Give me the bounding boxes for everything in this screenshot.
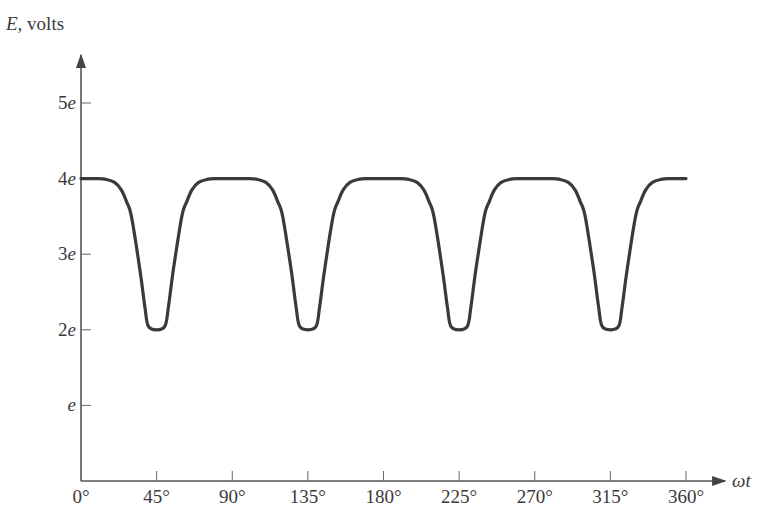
x-tick-label: 135° bbox=[290, 486, 326, 507]
y-tick-label: 4e bbox=[58, 168, 76, 189]
y-tick-label: 5e bbox=[58, 92, 76, 113]
x-tick-label: 180° bbox=[365, 486, 401, 507]
x-tick-label: 315° bbox=[592, 486, 628, 507]
y-axis-label: E, volts bbox=[5, 13, 64, 34]
x-axis-label: ωt bbox=[732, 470, 751, 491]
y-tick-label: 2e bbox=[58, 319, 76, 340]
x-tick-label: 270° bbox=[517, 486, 553, 507]
y-tick-label: 3e bbox=[58, 243, 76, 264]
x-tick-label: 90° bbox=[219, 486, 246, 507]
chart: E, volts ωt 0°45°90°135°180°225°270°315°… bbox=[0, 0, 780, 529]
x-tick-label: 45° bbox=[143, 486, 170, 507]
x-tick-label: 225° bbox=[441, 486, 477, 507]
x-ticks: 0°45°90°135°180°225°270°315°360° bbox=[72, 471, 704, 507]
y-tick-label: e bbox=[68, 394, 76, 415]
x-tick-label: 360° bbox=[668, 486, 704, 507]
x-tick-label: 0° bbox=[72, 486, 89, 507]
y-ticks: e2e3e4e5e bbox=[58, 92, 91, 415]
voltage-waveform-line bbox=[81, 179, 686, 330]
